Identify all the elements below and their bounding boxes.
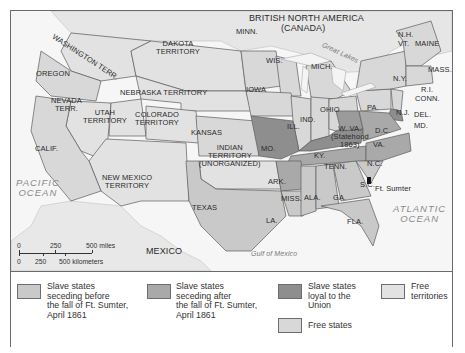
label-mich: MICH.: [311, 63, 333, 71]
legend-swatch: [17, 284, 41, 299]
label-nj: N.J.: [396, 109, 410, 117]
label-tenn: TENN.: [324, 163, 347, 171]
label-canada-sub: (CANADA): [281, 24, 325, 33]
label-nh: N.H.: [398, 31, 413, 39]
label-utah: UTAHTERRITORY: [83, 109, 127, 125]
label-minn: MINN.: [236, 28, 258, 36]
legend-swatch: [278, 318, 302, 333]
label-new-mexico: NEW MEXICOTERRITORY: [102, 174, 152, 190]
label-nevada: NEVADATERR.: [51, 97, 82, 113]
label-calif: CALIF.: [35, 145, 58, 153]
legend-swatch: [381, 284, 405, 299]
label-ill: ILL.: [287, 123, 300, 131]
label-mo: MO.: [261, 145, 275, 153]
label-dc: D.C.: [375, 127, 390, 135]
label-texas: TEXAS: [192, 204, 217, 212]
map-legend: Slave states seceding before the fall of…: [11, 271, 452, 347]
label-kansas: KANSAS: [191, 129, 222, 137]
label-pacific-ocean: PACIFICOCEAN: [16, 178, 60, 198]
label-ky: KY.: [314, 152, 325, 160]
civil-war-map: BRITISH NORTH AMERICA (CANADA) Great Lak…: [11, 11, 452, 271]
label-iowa: IOWA: [246, 86, 266, 94]
label-la: LA.: [266, 217, 278, 225]
label-nc: N.C.: [367, 160, 382, 168]
label-maine: MAINE: [415, 40, 439, 48]
label-nebraska: NEBRASKA TERRITORY: [120, 89, 207, 97]
map-frame: BRITISH NORTH AMERICA (CANADA) Great Lak…: [10, 10, 453, 347]
label-ark: ARK.: [268, 178, 286, 186]
label-oregon: OREGON: [36, 70, 70, 78]
label-ri: R.I.: [421, 86, 433, 94]
label-mexico: MEXICO: [146, 247, 182, 256]
label-va: VA.: [373, 141, 385, 149]
label-ga: GA.: [333, 194, 346, 202]
label-dakota: DAKOTATERRITORY: [156, 40, 200, 56]
label-colorado: COLORADOTERRITORY: [135, 111, 179, 127]
label-ny: N.Y.: [393, 75, 407, 83]
label-miss: MISS.: [281, 195, 302, 203]
label-ind: IND.: [300, 116, 315, 124]
label-sc: S.C.: [360, 181, 375, 189]
label-pa: PA.: [367, 104, 379, 112]
label-wva: W. VA.(Statehood1863): [331, 125, 369, 149]
label-ohio: OHIO: [320, 106, 340, 114]
label-indian-territory: INDIANTERRITORY(UNORGANIZED): [199, 144, 261, 168]
label-vt: VT.: [398, 40, 409, 48]
label-wis: WIS.: [266, 57, 283, 65]
label-mass: MASS.: [428, 66, 452, 74]
legend-swatch: [147, 284, 171, 299]
label-md: MD.: [414, 122, 428, 130]
label-ft-sumter: Ft. Sumter: [375, 185, 411, 193]
legend-swatch: [278, 284, 302, 299]
label-ala: ALA.: [304, 194, 321, 202]
label-fla: FLA.: [347, 218, 363, 226]
label-del: DEL.: [414, 111, 431, 119]
label-atlantic-ocean: ATLANTICOCEAN: [393, 204, 446, 224]
label-conn: CONN.: [415, 95, 440, 103]
label-gulf-of-mexico: Gulf of Mexico: [251, 250, 297, 257]
